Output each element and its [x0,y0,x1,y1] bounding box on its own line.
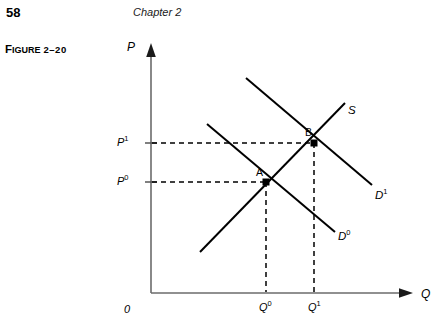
textbook-page: 58 Chapter 2 FIGURE2–20 [0,0,442,324]
x-axis [151,288,413,298]
y-tick-label-p0: P0 [117,175,129,187]
curve-label-d0-sup: 0 [346,228,350,237]
x-tick-q1-base: Q [308,301,317,313]
point-label-a: A [256,166,263,178]
x-tick-q1-sup: 1 [317,299,321,308]
origin-label: 0 [124,303,130,315]
curve-label-s-base: S [348,104,356,116]
y-axis [146,43,156,293]
y-tick-p1-sup: 1 [124,134,128,143]
y-tick-label-p1: P1 [117,136,129,148]
y-tick-p0-sup: 0 [124,173,128,182]
supply-demand-chart [0,0,442,324]
x-tick-label-q0: Q0 [259,301,272,313]
curve-label-d1: D1 [375,189,387,201]
x-tick-label-q1: Q1 [308,301,321,313]
curve-label-s: S [348,104,356,116]
x-tick-q0-sup: 0 [268,299,272,308]
point-label-b: B [305,126,312,138]
x-tick-q0-base: Q [259,301,268,313]
curve-label-d0: D0 [338,230,350,242]
y-axis-label: P [127,40,135,54]
equilibrium-marker-b [311,140,318,147]
equilibrium-marker-a [263,179,270,186]
supply-curve-s [200,103,345,252]
x-axis-label: Q [421,287,430,301]
curve-label-d1-sup: 1 [383,187,387,196]
